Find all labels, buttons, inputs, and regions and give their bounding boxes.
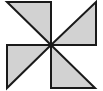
pinwheel-diagram (0, 0, 103, 91)
pinwheel-figure (0, 0, 103, 91)
pinwheel-center-point (49, 43, 52, 46)
